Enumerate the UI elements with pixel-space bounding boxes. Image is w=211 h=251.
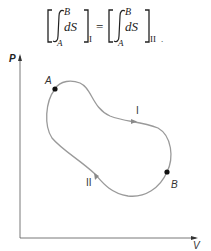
state-point-b [164,169,169,174]
pv-diagram: P V A B I II [0,0,211,251]
process-path-2 [47,89,167,196]
process-path-1 [55,81,171,172]
y-axis-arrow-icon [18,54,22,61]
path-1-label: I [136,105,139,116]
point-b-label: B [171,179,178,190]
state-point-a [52,86,57,91]
y-axis-label: P [9,53,16,64]
point-a-label: A [44,75,52,86]
path-2-direction-arrow-icon [94,173,99,180]
x-axis-label: V [193,240,201,251]
path-1-direction-arrow-icon [131,119,137,124]
path-2-label: II [86,177,92,188]
